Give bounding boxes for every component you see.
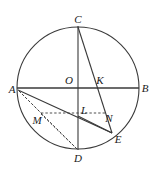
point-label-D: D [74, 153, 82, 164]
point-label-C: C [74, 14, 81, 25]
segment-AD-dashed [19, 91, 77, 149]
point-label-L: L [81, 105, 87, 116]
point-label-B: B [142, 83, 149, 94]
segment-MD-dashed [41, 114, 77, 149]
point-label-N: N [105, 113, 112, 124]
figure-canvas [0, 0, 153, 171]
point-label-M: M [32, 115, 41, 126]
point-label-K: K [96, 75, 103, 86]
point-label-O: O [65, 75, 73, 86]
point-label-A: A [9, 84, 16, 95]
point-label-E: E [115, 134, 122, 145]
geometry-figure: A B C D E K L M N O [0, 0, 153, 171]
